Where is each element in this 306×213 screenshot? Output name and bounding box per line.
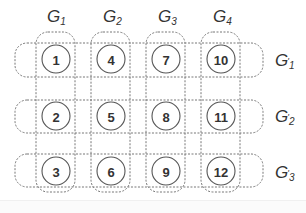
node-label: 10	[214, 53, 228, 68]
label-subscript: 3	[289, 172, 295, 183]
node-label: 6	[107, 165, 114, 180]
diagram-canvas: 1 4 7 10 2 5 8 11 3 6 9 12	[0, 0, 306, 213]
label-subscript: 1	[289, 60, 295, 71]
node-label: 4	[107, 53, 115, 68]
bottom-edge	[0, 200, 306, 213]
node-label: 2	[52, 110, 59, 125]
node-label: 3	[52, 165, 59, 180]
label-base: G	[158, 7, 171, 26]
label-subscript: 4	[226, 16, 232, 27]
label-subscript: 1	[60, 16, 66, 27]
node-label: 9	[162, 165, 169, 180]
node-label: 8	[162, 110, 169, 125]
row-group-label-g3-prime: G'3	[275, 164, 295, 181]
row-group-label-g1-prime: G'1	[275, 52, 295, 69]
label-subscript: 2	[289, 116, 295, 127]
label-subscript: 2	[116, 16, 122, 27]
column-group-label-g4: G4	[213, 8, 232, 25]
node-label: 12	[214, 165, 228, 180]
column-group-label-g3: G3	[158, 8, 177, 25]
label-base: G	[103, 7, 116, 26]
node-label: 1	[52, 53, 59, 68]
node-label: 7	[162, 53, 169, 68]
column-group-label-g2: G2	[103, 8, 122, 25]
column-group-label-g1: G1	[47, 8, 66, 25]
node-label: 11	[214, 110, 228, 125]
label-base: G	[213, 7, 226, 26]
node-label: 5	[107, 110, 114, 125]
label-base: G	[47, 7, 60, 26]
group-grid-diagram: 1 4 7 10 2 5 8 11 3 6 9 12 G1 G2 G3 G4 G…	[0, 0, 306, 213]
row-group-label-g2-prime: G'2	[275, 108, 295, 125]
label-subscript: 3	[171, 16, 177, 27]
